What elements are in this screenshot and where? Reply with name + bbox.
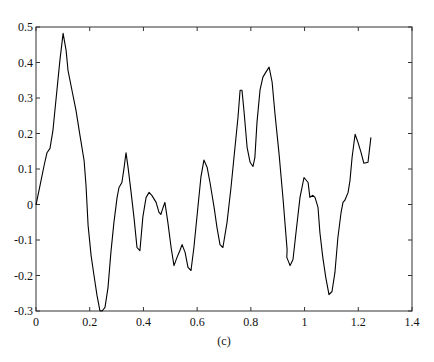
figure: 00.20.40.60.811.21.4-0.3-0.2-0.100.10.20…	[0, 0, 434, 362]
x-tick-label: 0	[33, 315, 39, 329]
y-tick-label: -0.3	[14, 304, 33, 318]
x-tick-label: 1.4	[405, 315, 420, 329]
y-tick-label: 0.2	[18, 127, 33, 141]
figure-caption: (c)	[217, 334, 230, 348]
y-tick-label: 0.5	[18, 20, 33, 34]
y-tick-label: 0	[27, 198, 33, 212]
y-tick-label: 0.4	[18, 56, 33, 70]
y-tick-label: 0.1	[18, 162, 33, 176]
y-tick-label: -0.1	[14, 233, 33, 247]
line-chart: 00.20.40.60.811.21.4-0.3-0.2-0.100.10.20…	[0, 0, 434, 362]
data-line	[36, 33, 371, 311]
y-tick-label: 0.3	[18, 91, 33, 105]
y-tick-label: -0.2	[14, 269, 33, 283]
x-tick-label: 0.8	[243, 315, 258, 329]
x-tick-label: 1	[302, 315, 308, 329]
x-tick-label: 0.6	[190, 315, 205, 329]
axes-frame	[36, 27, 412, 311]
x-tick-label: 1.2	[351, 315, 366, 329]
x-tick-label: 0.2	[82, 315, 97, 329]
axes: 00.20.40.60.811.21.4-0.3-0.2-0.100.10.20…	[14, 20, 420, 329]
x-tick-label: 0.4	[136, 315, 151, 329]
